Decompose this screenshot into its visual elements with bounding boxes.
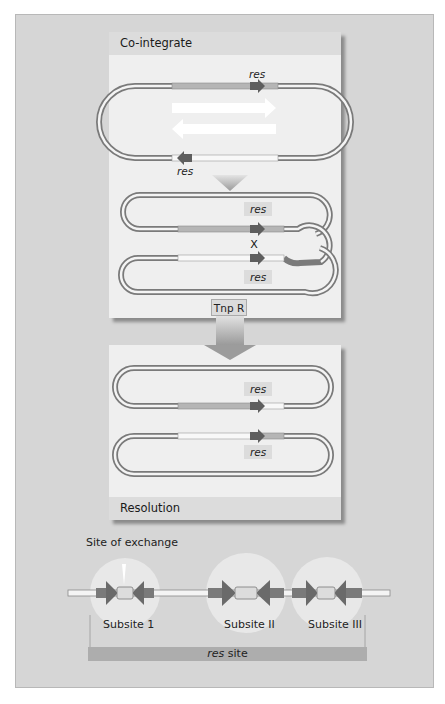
resolved-plasmid-2	[115, 429, 331, 474]
res-arrow-icon	[250, 399, 265, 413]
res-label: res	[249, 68, 266, 80]
res-site-italic: res	[207, 647, 224, 660]
exchange-core	[117, 587, 133, 599]
subsite-3-label: Subsite III	[308, 618, 362, 631]
res-arrow-icon	[250, 251, 265, 265]
res-arrow-icon	[250, 222, 265, 236]
left-arrow-icon	[172, 119, 276, 139]
res-label: res	[177, 165, 194, 177]
res-label: res	[250, 446, 267, 458]
res-site-label: res site	[88, 647, 367, 661]
res-arrow-icon	[250, 79, 265, 93]
crossover-mark: X	[250, 238, 258, 251]
down-arrow-icon	[204, 345, 256, 360]
subsite-1-label: Subsite 1	[103, 618, 154, 631]
resolved-plasmid-1	[115, 368, 331, 413]
res-label: res	[250, 383, 267, 395]
synapse-plasmid	[121, 195, 336, 293]
subsite-2-label: Subsite II	[224, 618, 275, 631]
enzyme-label: Tnp R	[211, 299, 247, 316]
cointegrate-plasmid	[99, 79, 351, 165]
res-arrow-icon	[177, 151, 192, 165]
site-of-exchange-label: Site of exchange	[86, 536, 178, 549]
down-arrow-icon	[212, 175, 248, 191]
right-arrow-icon	[172, 98, 276, 118]
diagram-svg: res res res X res res	[0, 0, 445, 704]
res-label: res	[250, 203, 267, 215]
res-arrow-icon	[250, 429, 265, 443]
res-site-schematic	[68, 553, 390, 661]
res-site-suffix: site	[224, 647, 247, 660]
res-label: res	[250, 271, 267, 283]
